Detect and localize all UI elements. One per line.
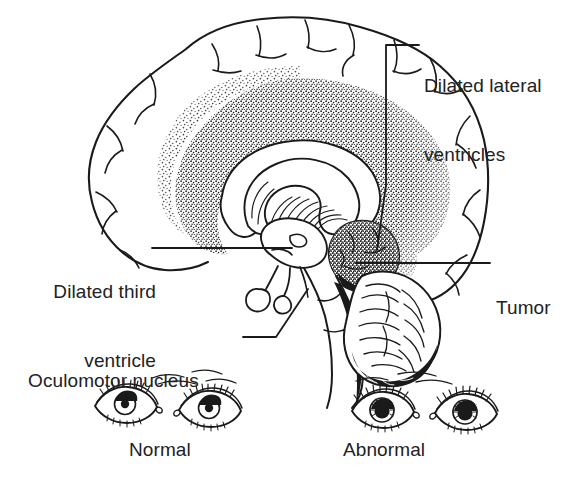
label-tumor: Tumor xyxy=(496,250,551,365)
label-line-1: Dilated lateral xyxy=(424,74,542,97)
figure-root: Dilated lateral ventricles Dilated third… xyxy=(0,0,584,483)
label-line-2: ventricles xyxy=(424,143,542,166)
caption-abnormal: Abnormal xyxy=(343,438,425,461)
label-line-1: Oculomotor nucleus xyxy=(28,369,199,392)
label-line-1: Dilated third xyxy=(8,280,156,303)
eye-abnormal-right xyxy=(430,386,498,434)
eye-abnormal-left xyxy=(352,384,419,432)
third-ventricle-region xyxy=(261,218,327,268)
pituitary-region xyxy=(246,266,308,314)
pupil-normal-right xyxy=(205,404,213,412)
label-line-1: Tumor xyxy=(496,296,551,319)
label-dilated-lateral-ventricles: Dilated lateral ventricles xyxy=(424,28,542,212)
label-oculomotor-nucleus: Oculomotor nucleus xyxy=(28,323,199,438)
caption-normal: Normal xyxy=(129,438,191,461)
